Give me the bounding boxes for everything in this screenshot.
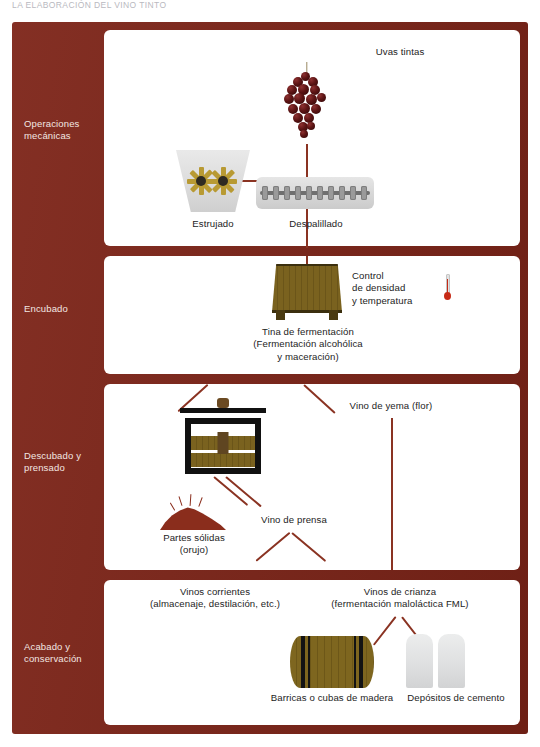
connector-presswine-right [291, 532, 326, 562]
fermentation-vat-icon [272, 264, 342, 320]
label-vino-de-prensa: Vino de prensa [244, 514, 344, 526]
pomace-heap-icon [160, 502, 226, 530]
label-vinos-corrientes: Vinos corrientes (almacenaje, destilació… [130, 586, 300, 611]
connector-grapes-to-split [306, 144, 308, 180]
stage-label-encubado: Encubado [24, 303, 100, 315]
label-depositos-de-cemento: Depósitos de cemento [396, 692, 516, 704]
panel-operaciones-mecanicas: Uvas tintas [104, 30, 520, 246]
stage-label-descubado-y-prensado: Descubado y prensado [24, 450, 100, 474]
document-header: LA ELABORACIÓN DEL VINO TINTO [12, 0, 332, 12]
connector-presswine-left [256, 532, 291, 562]
barrel-icon [290, 636, 374, 688]
stage-label-operaciones-mecanicas: Operaciones mecánicas [24, 118, 100, 142]
connector-freerun-down [391, 418, 393, 570]
thermometer-icon [444, 274, 451, 300]
crusher-icon [176, 150, 250, 212]
cement-deposit-icon-1 [406, 634, 433, 688]
label-uvas-tintas: Uvas tintas [340, 46, 460, 58]
panel-encubado: Tina de fermentación (Fermentación alcoh… [104, 256, 520, 374]
wine-press-icon [180, 398, 266, 474]
panel-descubado-y-prensado: Vino de yema (flor) Partes sólidas (oruj… [104, 384, 520, 570]
connector-panel1-exit [306, 228, 308, 248]
stage-label-acabado-y-conservacion: Acabado y conservación [24, 641, 100, 665]
label-partes-solidas: Partes sólidas (orujo) [144, 532, 244, 557]
cement-deposit-icon-2 [438, 634, 465, 688]
label-vinos-de-crianza: Vinos de crianza (fermentación malolácti… [310, 586, 490, 611]
panel-acabado-y-conservacion: Vinos corrientes (almacenaje, destilació… [104, 580, 520, 725]
label-tina-de-fermentacion: Tina de fermentación (Fermentación alcoh… [248, 326, 368, 363]
label-despalillado: Despalillado [270, 218, 362, 230]
grape-bunch-icon [283, 72, 331, 144]
connector-panel2-entry [306, 256, 308, 264]
label-control-densidad-temperatura: Control de densidad y temperatura [352, 270, 436, 307]
label-barricas: Barricas o cubas de madera [264, 692, 400, 704]
label-vino-de-yema: Vino de yema (flor) [326, 400, 456, 412]
label-estrujado: Estrujado [173, 218, 253, 230]
diagram-stage: LA ELABORACIÓN DEL VINO TINTO Operacione… [0, 0, 540, 747]
connector-crianza-to-barrels [373, 616, 396, 645]
destemmer-icon [256, 177, 374, 209]
